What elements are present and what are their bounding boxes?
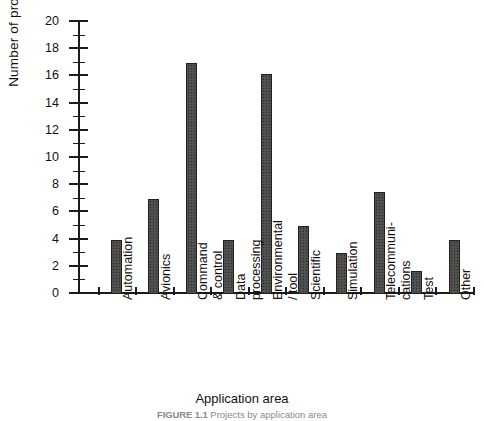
x-label-test: Test bbox=[422, 277, 437, 300]
y-tick-minor bbox=[73, 252, 85, 253]
y-tick-20: 20 bbox=[69, 20, 88, 22]
x-label-line: Telecommuni- bbox=[384, 222, 398, 300]
y-tick-label: 20 bbox=[29, 13, 59, 29]
figure-caption-text: Projects by application area bbox=[210, 409, 327, 420]
x-label-command-control: Command& control bbox=[196, 242, 225, 300]
figure-container: Number of projects 02468101214161820 Aut… bbox=[0, 0, 484, 421]
y-tick-6: 6 bbox=[69, 210, 88, 212]
x-tick bbox=[360, 287, 362, 295]
x-label-line: & control bbox=[211, 242, 226, 300]
y-tick-minor bbox=[73, 171, 85, 172]
x-label-line: / tool bbox=[286, 220, 301, 300]
x-label-line: cations bbox=[399, 222, 414, 300]
y-tick-label: 8 bbox=[29, 176, 59, 192]
x-label-environmental-tool: Environmental/ tool bbox=[271, 220, 300, 300]
y-tick-12: 12 bbox=[69, 129, 88, 131]
figure-caption: FIGURE 1.1 Projects by application area bbox=[0, 409, 484, 420]
y-tick-label: 12 bbox=[29, 122, 59, 138]
x-label-telecommunications: Telecommuni-cations bbox=[384, 222, 413, 300]
x-tick bbox=[98, 287, 100, 295]
x-label-line: Avionics bbox=[159, 254, 173, 300]
y-tick-label: 4 bbox=[29, 231, 59, 247]
bar-data-processing bbox=[223, 240, 234, 294]
x-label-scientific: Scientific bbox=[309, 250, 324, 300]
x-axis-title: Application area bbox=[0, 391, 484, 406]
y-tick-minor bbox=[73, 35, 85, 36]
y-tick-8: 8 bbox=[69, 183, 88, 185]
x-label-line: Simulation bbox=[346, 242, 360, 300]
y-tick-4: 4 bbox=[69, 238, 88, 240]
bar-other bbox=[449, 240, 460, 294]
x-label-data-processing: Dataprocessing bbox=[234, 240, 263, 300]
x-label-line: Command bbox=[196, 242, 210, 300]
x-label-line: Automation bbox=[121, 237, 135, 300]
y-tick-label: 16 bbox=[29, 67, 59, 83]
y-tick-minor bbox=[73, 198, 85, 199]
y-tick-2: 2 bbox=[69, 265, 88, 267]
y-tick-10: 10 bbox=[69, 156, 88, 158]
y-tick-18: 18 bbox=[69, 47, 88, 49]
bar-avionics bbox=[148, 199, 159, 294]
x-label-avionics: Avionics bbox=[159, 254, 174, 300]
x-label-line: Other bbox=[459, 269, 473, 300]
x-label-other: Other bbox=[459, 269, 474, 300]
y-tick-16: 16 bbox=[69, 74, 88, 76]
y-tick-minor bbox=[73, 89, 85, 90]
x-label-automation: Automation bbox=[121, 237, 136, 300]
y-tick-minor bbox=[73, 143, 85, 144]
x-label-line: Test bbox=[422, 277, 436, 300]
x-label-line: processing bbox=[248, 240, 263, 300]
y-tick-minor bbox=[73, 62, 85, 63]
y-tick-label: 10 bbox=[29, 149, 59, 165]
bar-telecommunications bbox=[374, 192, 385, 294]
y-tick-label: 0 bbox=[29, 285, 59, 301]
figure-caption-number: FIGURE 1.1 bbox=[157, 409, 208, 420]
y-tick-label: 14 bbox=[29, 95, 59, 111]
x-label-line: Scientific bbox=[309, 250, 323, 300]
y-tick-label: 2 bbox=[29, 258, 59, 274]
y-tick-label: 18 bbox=[29, 40, 59, 56]
y-tick-0: 0 bbox=[69, 292, 88, 294]
y-tick-label: 6 bbox=[29, 203, 59, 219]
bar-scientific bbox=[298, 226, 309, 294]
y-tick-minor bbox=[73, 225, 85, 226]
y-tick-14: 14 bbox=[69, 102, 88, 104]
y-tick-minor bbox=[73, 279, 85, 280]
x-label-line: Data bbox=[234, 274, 248, 300]
x-label-line: Environmental bbox=[271, 220, 285, 300]
y-tick-minor bbox=[73, 116, 85, 117]
x-label-simulation: Simulation bbox=[346, 242, 361, 300]
